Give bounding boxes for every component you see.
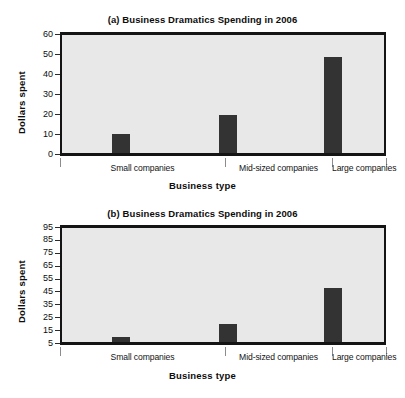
bar-a-0: [112, 134, 130, 153]
y-tick-label-a-3: 30: [43, 88, 53, 100]
y-tick-label-b-8: 85: [43, 233, 53, 245]
bar-a-1: [219, 115, 237, 153]
x-category-label-b-0: Small companies: [60, 352, 225, 362]
y-tick-label-b-5: 55: [43, 272, 53, 284]
y-tick-label-b-2: 25: [43, 311, 53, 323]
bar-series-a: [62, 35, 384, 153]
bar-b-2: [324, 288, 342, 342]
y-axis-a: 0102030405060: [36, 34, 60, 154]
y-tick-label-b-1: 15: [43, 324, 53, 336]
chart-title-a: (a) Business Dramatics Spending in 2006: [0, 14, 405, 25]
x-axis-label-a: Business type: [0, 180, 405, 191]
bar-series-b: [62, 228, 384, 342]
chart-figure-b: (b) Business Dramatics Spending in 2006 …: [0, 199, 405, 398]
y-tick-label-a-1: 10: [43, 128, 53, 140]
chart-figure-a: (a) Business Dramatics Spending in 2006 …: [0, 0, 405, 199]
y-tick-label-b-0: 5: [48, 337, 53, 349]
y-tick-label-b-6: 65: [43, 259, 53, 271]
y-axis-label-b: Dollars spent: [16, 260, 27, 323]
x-category-label-b-2: Large companies: [332, 352, 386, 362]
x-axis-label-b: Business type: [0, 370, 405, 381]
y-tick-label-b-3: 35: [43, 298, 53, 310]
y-tick-label-a-5: 50: [43, 48, 53, 60]
y-tick-label-a-0: 0: [48, 148, 53, 160]
plot-area-b: [60, 225, 386, 345]
x-category-label-b-1: Mid-sized companies: [225, 352, 332, 362]
bar-a-2: [324, 57, 342, 153]
plot-area-a: [60, 32, 386, 156]
y-tick-label-b-7: 75: [43, 246, 53, 258]
y-tick-label-a-2: 20: [43, 108, 53, 120]
y-tick-label-b-9: 95: [43, 221, 53, 233]
bar-b-1: [219, 324, 237, 342]
y-axis-label-a: Dollars spent: [16, 71, 27, 134]
y-axis-b: 5152535455565758595: [36, 227, 60, 343]
y-tick-label-a-4: 40: [43, 68, 53, 80]
x-category-label-a-1: Mid-sized companies: [225, 163, 332, 173]
chart-title-b: (b) Business Dramatics Spending in 2006: [0, 208, 405, 219]
x-category-label-a-2: Large companies: [332, 163, 386, 173]
y-tick-label-a-6: 60: [43, 28, 53, 40]
bar-b-0: [112, 337, 130, 342]
y-tick-label-b-4: 45: [43, 285, 53, 297]
x-category-label-a-0: Small companies: [60, 163, 225, 173]
